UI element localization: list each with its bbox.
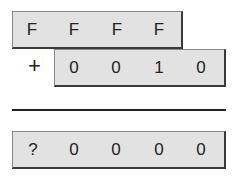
result-digit: 0 <box>154 140 163 160</box>
operand-b-digit: 0 <box>69 58 78 78</box>
result-digit: 0 <box>69 140 78 160</box>
sum-rule-line <box>12 109 226 111</box>
operand-a-digit: F <box>154 20 164 40</box>
operand-a-register: F F F F <box>12 11 183 49</box>
operand-b-register: 0 0 1 0 <box>54 49 226 87</box>
operand-b-digit: 1 <box>154 58 163 78</box>
result-digit: 0 <box>196 140 205 160</box>
operand-a-digit: F <box>27 20 37 40</box>
carry-digit: ? <box>28 140 37 160</box>
operand-b-digit: 0 <box>196 58 205 78</box>
plus-operator: + <box>28 53 41 79</box>
operand-b-digit: 0 <box>111 58 120 78</box>
result-register: ? 0 0 0 0 <box>12 131 226 169</box>
result-digit: 0 <box>111 140 120 160</box>
operand-a-digit: F <box>112 20 122 40</box>
operand-a-digit: F <box>69 20 79 40</box>
